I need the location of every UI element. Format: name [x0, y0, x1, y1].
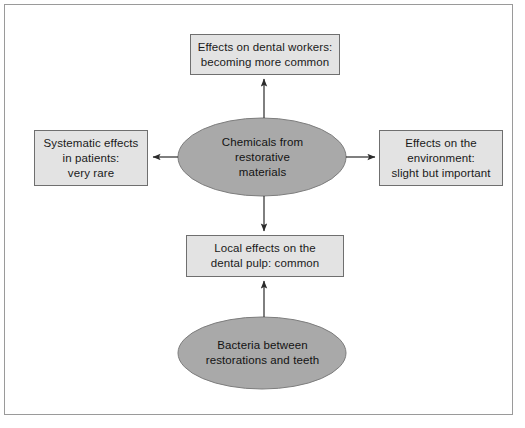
- node-top-box: Effects on dental workers: becoming more…: [190, 34, 340, 75]
- node-bottom-box: Local effects on the dental pulp: common: [186, 235, 344, 277]
- node-right-box: Effects on the environment: slight but i…: [379, 130, 503, 186]
- bottom-ellipse-shape: [178, 317, 346, 389]
- bottom-box-line-2: dental pulp: common: [211, 257, 320, 269]
- left-box-line-3: very rare: [68, 167, 114, 179]
- diagram-root: Chemicals from restorative materials Bac…: [0, 0, 525, 428]
- node-left-box: Systematic effects in patients: very rar…: [34, 130, 148, 186]
- right-box-line-2: environment:: [407, 152, 475, 164]
- center-ellipse-shape: [178, 118, 346, 196]
- bottom-box-line-1: Local effects on the: [214, 242, 316, 254]
- top-box-line-2: becoming more common: [201, 56, 330, 68]
- left-box-line-2: in patients:: [63, 152, 120, 164]
- left-box-line-1: Systematic effects: [44, 137, 139, 149]
- right-box-line-1: Effects on the: [405, 137, 477, 149]
- right-box-line-3: slight but important: [391, 167, 490, 179]
- top-box-line-1: Effects on dental workers:: [198, 41, 333, 53]
